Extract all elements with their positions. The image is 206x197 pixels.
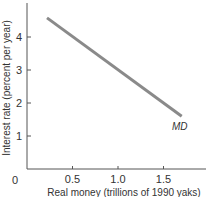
y-tick-label: 1 (16, 130, 22, 142)
y-tick-label: 3 (16, 64, 22, 76)
axes (27, 3, 206, 169)
x-tick-label: 1.0 (110, 173, 125, 185)
y-tick-label: 4 (16, 31, 22, 43)
md-label: MD (172, 121, 188, 132)
origin-label: 0 (12, 174, 18, 186)
x-tick-label: 1.5 (156, 173, 171, 185)
x-axis-title: Real money (trillions of 1990 yaks) (47, 187, 200, 197)
md-curve (47, 18, 182, 116)
y-axis-title: Interest rate (percent per year) (1, 20, 12, 156)
y-ticks: 1234 (16, 31, 31, 142)
y-tick-label: 2 (16, 97, 22, 109)
series-group: MD (47, 18, 187, 132)
chart: 1234 0.51.01.5 0 Interest rate (percent … (0, 0, 206, 197)
x-tick-label: 0.5 (65, 173, 80, 185)
